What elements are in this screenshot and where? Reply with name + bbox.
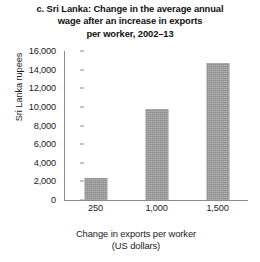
y-axis-tick-label: 10,000 (29, 102, 56, 112)
bars-group (65, 51, 248, 200)
bar[interactable] (84, 178, 107, 200)
x-axis-tick-labels: 2501,0001,500 (65, 203, 248, 217)
y-axis-tick-label: 4,000 (34, 158, 56, 168)
y-axis-tick-label: 2,000 (34, 176, 56, 186)
y-axis-tick-label: 16,000 (29, 46, 56, 56)
y-axis-tick-labels: 16,00014,00012,00010,0008,0006,0004,0002… (20, 51, 60, 200)
x-axis-line (64, 200, 248, 201)
x-axis-tick-label: 250 (65, 203, 126, 213)
y-axis-tick-label: 12,000 (29, 83, 56, 93)
bar[interactable] (206, 63, 229, 200)
x-axis-tick-label: 1,500 (187, 203, 248, 213)
y-axis-tick-label: 0 (51, 195, 56, 205)
bar[interactable] (145, 109, 168, 200)
x-axis-title: Change in exports per worker (US dollars… (26, 228, 246, 252)
bar-slot (65, 51, 126, 200)
y-axis-tick-label: 6,000 (34, 139, 56, 149)
bar-slot (126, 51, 187, 200)
x-axis-title-line-1: Change in exports per worker (26, 228, 246, 240)
y-axis-tick-label: 8,000 (34, 121, 56, 131)
x-axis-tick-label: 1,000 (126, 203, 187, 213)
bar-slot (187, 51, 248, 200)
bar-chart: Sri Lanka rupees 16,00014,00012,00010,00… (0, 0, 260, 262)
y-axis-tick-label: 14,000 (29, 65, 56, 75)
x-axis-title-line-2: (US dollars) (26, 240, 246, 252)
